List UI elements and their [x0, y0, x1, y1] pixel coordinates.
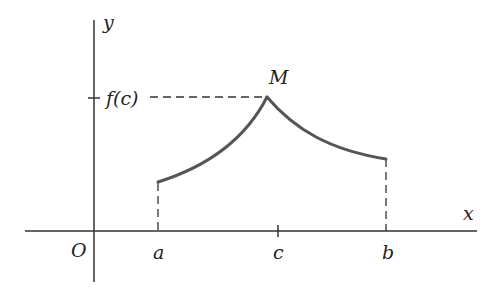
- curve-left-branch: [158, 97, 267, 182]
- curve-right-branch: [267, 97, 386, 159]
- point-label-m: M: [268, 66, 289, 88]
- function-graph: y x O a c b f(c) M: [0, 0, 501, 292]
- tick-label-b: b: [382, 241, 394, 263]
- origin-label: O: [71, 239, 87, 261]
- tick-label-c: c: [273, 241, 284, 263]
- tick-label-a: a: [153, 241, 164, 263]
- y-axis-label: y: [102, 11, 114, 33]
- x-axis-label: x: [463, 202, 474, 224]
- tick-label-fc: f(c): [104, 87, 139, 109]
